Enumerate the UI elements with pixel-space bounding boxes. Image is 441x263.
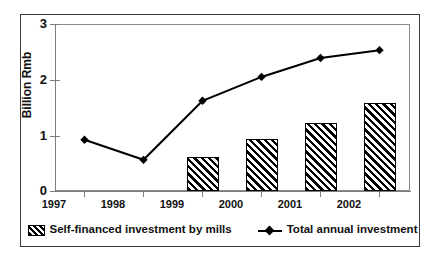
- x-tick-label-2001: 2001: [260, 199, 320, 210]
- bar-2001: [305, 123, 337, 191]
- y-tick-label-0: 0: [25, 184, 47, 197]
- legend: Self-financed investment by mills Total …: [50, 220, 395, 240]
- y-tick-label-1: 1: [25, 129, 47, 142]
- diamond-line-swatch-icon: [258, 225, 282, 236]
- legend-label-total-annual: Total annual investment: [287, 224, 418, 236]
- x-axis-line: [55, 191, 411, 192]
- legend-diamond-marker: [264, 225, 274, 235]
- plot-area: [55, 24, 410, 191]
- x-tick-mark-2000: [261, 191, 262, 197]
- legend-label-self-financed: Self-financed investment by mills: [50, 224, 232, 236]
- y-tick-mark-0: [50, 191, 60, 192]
- bar-2002: [364, 103, 396, 191]
- x-tick-label-2000: 2000: [201, 199, 261, 210]
- x-tick-mark-2002: [379, 191, 380, 197]
- x-tick-label-2002: 2002: [319, 199, 379, 210]
- y-tick-mark-1: [50, 136, 60, 137]
- legend-entry-total-annual: Total annual investment: [258, 224, 418, 236]
- hatched-bar-swatch-icon: [28, 225, 45, 236]
- x-tick-mark-1997: [84, 191, 85, 197]
- x-tick-label-1999: 1999: [142, 199, 202, 210]
- bar-2000: [246, 139, 278, 191]
- x-tick-label-1998: 1998: [83, 199, 143, 210]
- y-axis-line: [55, 24, 56, 192]
- y-tick-label-3: 3: [25, 17, 47, 30]
- bar-1999: [187, 157, 219, 191]
- x-tick-mark-1999: [202, 191, 203, 197]
- x-tick-mark-2001: [320, 191, 321, 197]
- chart-figure: Billion Rmb 3 2 1 0 1997 1998 1999 2000 …: [0, 0, 441, 263]
- y-tick-mark-3: [50, 24, 60, 25]
- x-tick-label-1997: 1997: [24, 199, 84, 210]
- legend-entry-self-financed: Self-financed investment by mills: [28, 224, 232, 236]
- y-tick-label-2: 2: [25, 73, 47, 86]
- x-tick-mark-1998: [143, 191, 144, 197]
- y-tick-mark-2: [50, 80, 60, 81]
